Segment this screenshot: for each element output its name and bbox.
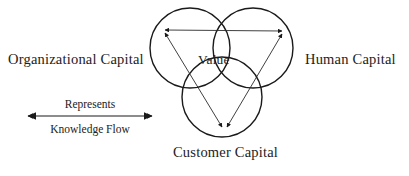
value-label: Value <box>198 52 230 68</box>
venn-diagram-figure: Organizational Capital Human Capital Cus… <box>0 0 409 176</box>
human-capital-circle <box>213 8 293 88</box>
customer-capital-label: Customer Capital <box>173 144 278 161</box>
flow-left-to-right-arrow <box>165 30 282 31</box>
legend-arrow-wrap <box>22 111 158 121</box>
legend-represents-label: Represents <box>22 97 158 111</box>
legend: Represents Knowledge Flow <box>22 97 158 136</box>
human-capital-label: Human Capital <box>305 51 396 68</box>
legend-knowledge-flow-label: Knowledge Flow <box>22 122 158 136</box>
customer-capital-circle <box>182 57 262 137</box>
flow-right-to-bottom-arrow <box>227 34 282 127</box>
double-headed-arrow-icon <box>22 111 158 121</box>
organizational-capital-circle <box>150 8 230 88</box>
organizational-capital-label: Organizational Capital <box>8 51 144 68</box>
